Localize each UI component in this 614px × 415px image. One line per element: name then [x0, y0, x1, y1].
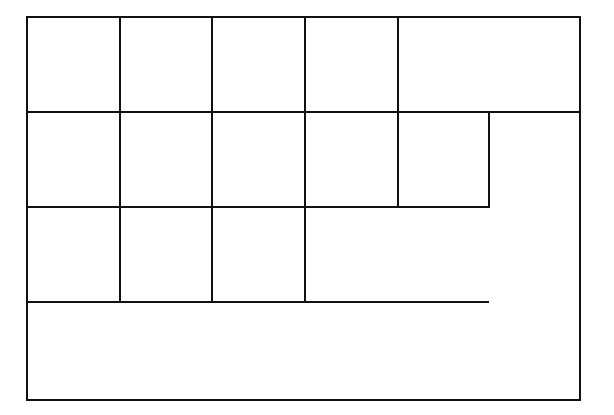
grid-cell — [120, 112, 212, 207]
grid-cell — [398, 112, 489, 207]
grid-cell — [27, 207, 120, 302]
grid-cell — [212, 112, 305, 207]
grid-cell — [212, 207, 305, 302]
grid-cell — [120, 207, 212, 302]
grid-cell — [27, 17, 120, 112]
outer-frame — [27, 17, 580, 400]
grid-diagram — [0, 0, 614, 415]
grid-cell — [27, 112, 120, 207]
diagram-cells — [27, 17, 580, 302]
diagram-extra-lines — [305, 207, 489, 302]
grid-cell — [120, 17, 212, 112]
grid-cell — [305, 112, 398, 207]
grid-cell — [398, 17, 580, 112]
grid-cell — [305, 17, 398, 112]
grid-cell — [212, 17, 305, 112]
